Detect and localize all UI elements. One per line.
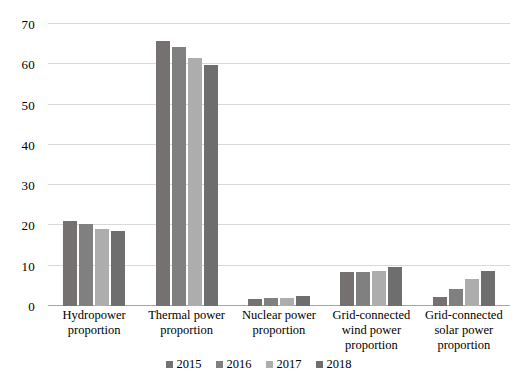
x-axis-label: Hydropowerproportion — [48, 308, 140, 338]
legend-swatch-icon — [266, 361, 273, 368]
bar[interactable] — [388, 267, 402, 306]
chart-legend: 2015201620172018 — [0, 358, 517, 371]
x-axis-label-line: wind power — [325, 323, 417, 338]
legend-label: 2017 — [277, 358, 302, 371]
y-tick-label: 50 — [22, 98, 35, 111]
bar[interactable] — [188, 58, 202, 306]
x-axis-label-line: proportion — [233, 323, 325, 338]
x-axis-label: Grid-connectedsolar powerproportion — [418, 308, 510, 353]
legend-swatch-icon — [316, 361, 323, 368]
bar-group — [48, 24, 140, 306]
x-axis-label-line: proportion — [418, 338, 510, 353]
bar[interactable] — [79, 224, 93, 306]
x-axis-label: Thermal powerproportion — [140, 308, 232, 338]
x-axis-label: Grid-connectedwind powerproportion — [325, 308, 417, 353]
x-axis-label-line: solar power — [418, 323, 510, 338]
y-tick-label: 0 — [28, 300, 35, 313]
legend-item-2017[interactable]: 2017 — [266, 358, 302, 371]
bar[interactable] — [204, 65, 218, 306]
legend-item-2016[interactable]: 2016 — [216, 358, 252, 371]
bar[interactable] — [356, 272, 370, 306]
plot-area — [48, 24, 510, 306]
x-axis-label-line: proportion — [325, 338, 417, 353]
bar[interactable] — [280, 298, 294, 306]
bar-group — [140, 24, 232, 306]
x-axis-label-line: Grid-connected — [418, 308, 510, 323]
bar-group — [325, 24, 417, 306]
y-axis-tick-labels: 010203040506070 — [0, 24, 42, 306]
x-axis-label-line: Nuclear power — [233, 308, 325, 323]
bar[interactable] — [433, 297, 447, 306]
y-tick-label: 40 — [22, 138, 35, 151]
legend-swatch-icon — [216, 361, 223, 368]
bar[interactable] — [340, 272, 354, 306]
y-tick-label: 70 — [22, 18, 35, 31]
y-tick-label: 60 — [22, 58, 35, 71]
bar-chart: 010203040506070 HydropowerproportionTher… — [0, 0, 517, 376]
legend-swatch-icon — [166, 361, 173, 368]
bar[interactable] — [296, 296, 310, 306]
bar[interactable] — [111, 231, 125, 306]
x-axis-label-line: Hydropower — [48, 308, 140, 323]
legend-label: 2015 — [177, 358, 202, 371]
x-axis-label-line: proportion — [48, 323, 140, 338]
x-axis-category-labels: HydropowerproportionThermal powerproport… — [48, 308, 510, 356]
x-axis-label: Nuclear powerproportion — [233, 308, 325, 338]
legend-item-2018[interactable]: 2018 — [316, 358, 352, 371]
x-axis-label-line: Thermal power — [140, 308, 232, 323]
bar[interactable] — [465, 279, 479, 306]
y-tick-label: 20 — [22, 219, 35, 232]
bar[interactable] — [63, 221, 77, 306]
x-axis-label-line: Grid-connected — [325, 308, 417, 323]
y-tick-label: 30 — [22, 179, 35, 192]
bar[interactable] — [95, 229, 109, 306]
bar[interactable] — [372, 271, 386, 306]
bar[interactable] — [172, 47, 186, 306]
bar-group — [418, 24, 510, 306]
y-tick-label: 10 — [22, 259, 35, 272]
bar-group — [233, 24, 325, 306]
legend-item-2015[interactable]: 2015 — [166, 358, 202, 371]
x-axis-label-line: proportion — [140, 323, 232, 338]
legend-label: 2018 — [327, 358, 352, 371]
bar[interactable] — [449, 289, 463, 306]
bar[interactable] — [264, 298, 278, 306]
bar[interactable] — [156, 41, 170, 306]
bar[interactable] — [248, 299, 262, 306]
bar[interactable] — [481, 271, 495, 306]
legend-label: 2016 — [227, 358, 252, 371]
